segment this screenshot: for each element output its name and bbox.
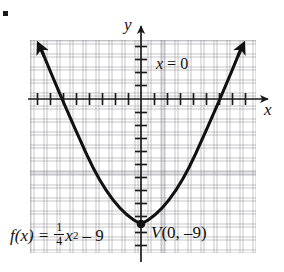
- vertex-letter: V: [151, 223, 161, 242]
- axis-of-symmetry-value: = 0: [167, 55, 188, 72]
- function-argument: (x) =: [15, 227, 50, 244]
- vertex-coordinates: (0, –9): [161, 223, 206, 242]
- axis-of-symmetry-variable: x: [156, 55, 163, 72]
- x-axis-label: x: [264, 101, 272, 118]
- function-equation-label: f(x) = 1 4 x2– 9: [10, 222, 104, 248]
- fraction-denominator: 4: [54, 235, 64, 248]
- vertex-label: V(0, –9): [151, 224, 207, 241]
- coefficient-fraction: 1 4: [54, 221, 64, 247]
- parabola-figure: y x x= 0 V(0, –9) f(x) = 1 4 x2– 9: [0, 0, 284, 272]
- axis-of-symmetry-label: x= 0: [156, 56, 188, 72]
- function-constant-term: – 9: [82, 227, 103, 244]
- function-variable: x: [65, 227, 73, 244]
- fraction-numerator: 1: [54, 221, 64, 234]
- y-axis-label: y: [124, 16, 132, 33]
- vertex-point-marker: [137, 220, 146, 229]
- function-exponent: 2: [73, 230, 79, 241]
